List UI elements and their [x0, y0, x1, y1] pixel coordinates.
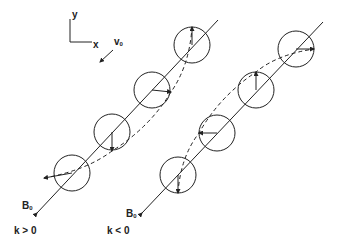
condition-label-right: k < 0: [107, 225, 130, 236]
y-axis-label: y: [72, 9, 78, 20]
perturbation-vector: [152, 90, 171, 92]
panel-left: [37, 20, 218, 213]
condition-label-left: k > 0: [14, 225, 37, 236]
panel-right: [142, 22, 323, 213]
field-label-right: B0: [126, 208, 137, 219]
velocity-label: v0: [114, 36, 123, 47]
b0-field-line: [142, 22, 323, 213]
helix-dashed-curve: [44, 27, 192, 178]
velocity-arrow: [100, 50, 113, 62]
panels: [37, 20, 323, 213]
b0-field-line: [37, 20, 218, 213]
helix-dashed-curve: [178, 49, 314, 193]
coordinate-axes: [70, 19, 113, 62]
field-label-left: B0: [22, 200, 33, 211]
helix-diagram: [0, 0, 340, 247]
x-axis-label: x: [93, 39, 99, 50]
